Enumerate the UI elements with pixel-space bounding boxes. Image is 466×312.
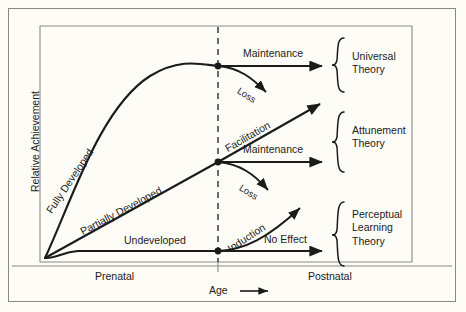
branch-label-perceptual-no-effect: No Effect	[264, 234, 307, 246]
theory-label-perceptual: Perceptual Learning Theory	[352, 208, 402, 248]
brace-universal	[332, 38, 344, 92]
brace-attunement	[332, 112, 344, 172]
x-axis-label: Age	[209, 285, 228, 297]
branch-label-universal-maintenance: Maintenance	[243, 48, 303, 60]
vertex-perceptual	[215, 248, 222, 255]
diagram-canvas	[0, 0, 466, 312]
theory-attunement-line-1: Attunement	[352, 124, 406, 137]
theory-perceptual-line-2: Learning	[352, 221, 402, 234]
curve-label-undeveloped: Undeveloped	[124, 235, 186, 247]
x-axis-baseline	[12, 262, 452, 272]
vertex-universal	[215, 63, 222, 70]
x-tick-label-prenatal: Prenatal	[95, 271, 134, 283]
y-axis-label: Relative Achievement	[30, 91, 42, 192]
curve-undeveloped	[46, 251, 218, 258]
theory-attunement-line-2: Theory	[352, 137, 406, 150]
theory-perceptual-line-3: Theory	[352, 235, 402, 248]
curve-fully-developed	[45, 63, 218, 258]
x-tick-label-postnatal: Postnatal	[308, 271, 352, 283]
figure-root: Relative Achievement Fully Developed Par…	[0, 0, 466, 312]
theory-label-universal: Universal Theory	[352, 50, 396, 77]
theory-perceptual-line-1: Perceptual	[352, 208, 402, 221]
vertex-attunement	[215, 159, 222, 166]
brace-perceptual	[332, 202, 344, 266]
theory-universal-line-2: Theory	[352, 63, 396, 76]
theory-universal-line-1: Universal	[352, 50, 396, 63]
theory-label-attunement: Attunement Theory	[352, 124, 406, 151]
branch-label-attunement-maintenance: Maintenance	[243, 144, 303, 156]
